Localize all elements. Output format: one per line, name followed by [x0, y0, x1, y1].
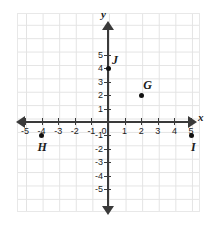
x-axis-tick — [25, 118, 26, 125]
point-label-h: H — [38, 141, 47, 153]
y-axis-tick-label: 2 — [89, 90, 103, 100]
x-axis-tick — [191, 118, 192, 125]
point-marker-j — [106, 66, 111, 71]
point-label-g: G — [143, 79, 152, 91]
x-axis-tick-label: -3 — [50, 126, 66, 136]
x-axis-tick — [125, 118, 126, 125]
y-axis-tick-label: 1 — [89, 104, 103, 114]
x-axis-tick-label: -2 — [67, 126, 83, 136]
point-label-i: I — [191, 141, 196, 153]
point-label-j: J — [112, 54, 118, 66]
x-axis-tick-label: 2 — [133, 126, 149, 136]
y-axis-tick-label: 3 — [89, 77, 103, 87]
coordinate-plane-figure: x y -5-4-3-2-101234554321-1-2-3-4-5 G H … — [0, 0, 216, 227]
point-marker-i — [189, 133, 194, 138]
x-axis-tick-label: 4 — [166, 126, 182, 136]
point-marker-h — [39, 133, 44, 138]
y-axis-tick — [104, 55, 111, 56]
x-axis-tick — [42, 118, 43, 125]
y-axis-tick — [104, 95, 111, 96]
y-axis-line — [107, 29, 109, 209]
x-axis-tick — [141, 118, 142, 125]
y-axis-tick — [104, 109, 111, 110]
y-axis-down-arrow-icon — [102, 206, 114, 215]
y-axis-tick — [104, 149, 111, 150]
x-axis-tick-label: 1 — [117, 126, 133, 136]
y-axis-tick — [104, 189, 111, 190]
y-axis-tick-label: -4 — [89, 171, 103, 181]
y-axis-tick-label: 4 — [89, 63, 103, 73]
y-axis-tick — [104, 176, 111, 177]
x-axis-tick — [75, 118, 76, 125]
x-axis-tick — [58, 118, 59, 125]
point-marker-g — [139, 93, 144, 98]
y-axis-tick — [104, 135, 111, 136]
x-axis-label: x — [198, 111, 204, 123]
y-axis-tick — [104, 162, 111, 163]
y-axis-tick-label: -2 — [89, 144, 103, 154]
y-axis-tick-label: -5 — [89, 184, 103, 194]
x-axis-tick — [174, 118, 175, 125]
x-axis-tick-label: -5 — [17, 126, 33, 136]
y-axis-up-arrow-icon — [102, 21, 114, 30]
y-axis-tick-label: 5 — [89, 50, 103, 60]
x-axis-tick — [91, 118, 92, 125]
x-axis-tick-label: 3 — [150, 126, 166, 136]
y-axis-tick-label: -1 — [89, 130, 103, 140]
y-axis-tick — [104, 82, 111, 83]
x-axis-tick — [158, 118, 159, 125]
y-axis-label: y — [101, 8, 106, 20]
y-axis-tick-label: -3 — [89, 157, 103, 167]
